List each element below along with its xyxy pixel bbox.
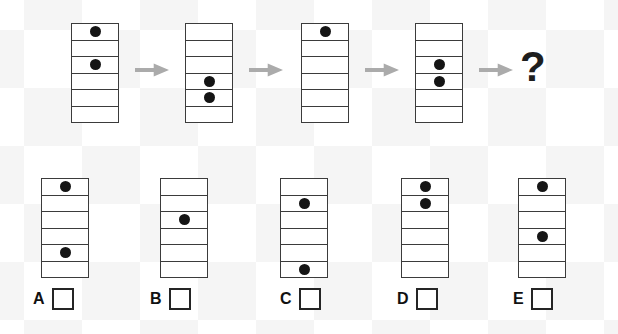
grid-row <box>72 56 118 73</box>
grid-row <box>519 261 565 278</box>
grid-row <box>519 244 565 261</box>
grid-row <box>161 228 207 245</box>
grid-row <box>42 211 88 228</box>
grid-row <box>402 261 448 278</box>
option-label-A: A <box>33 288 74 310</box>
dot-icon <box>90 26 101 37</box>
grid-row <box>42 179 88 195</box>
grid-row <box>302 89 348 106</box>
option-letter: C <box>280 290 292 308</box>
grid-row <box>186 106 232 123</box>
grid-row <box>519 195 565 212</box>
grid-row <box>186 89 232 106</box>
option-label-C: C <box>280 288 321 310</box>
grid-row <box>281 179 327 195</box>
grid-row <box>402 211 448 228</box>
dot-icon <box>537 231 548 242</box>
grid-row <box>402 244 448 261</box>
grid-row <box>72 73 118 90</box>
option-label-B: B <box>150 288 191 310</box>
grid-row <box>302 73 348 90</box>
grid-row <box>186 73 232 90</box>
arrow-right-icon <box>479 63 513 77</box>
grid-row <box>302 40 348 57</box>
option-label-D: D <box>397 288 438 310</box>
arrow-right-icon <box>249 63 283 77</box>
option-grid-B <box>160 178 208 278</box>
grid-row <box>281 244 327 261</box>
grid-row <box>302 106 348 123</box>
grid-row <box>416 73 462 90</box>
dot-icon <box>434 76 445 87</box>
dot-icon <box>60 181 71 192</box>
grid-row <box>281 228 327 245</box>
grid-row <box>161 179 207 195</box>
option-letter: D <box>397 290 409 308</box>
sequence-cell-step-2 <box>185 23 233 123</box>
dot-icon <box>204 92 215 103</box>
grid-row <box>519 228 565 245</box>
grid-row <box>281 261 327 278</box>
grid-row <box>42 261 88 278</box>
answer-checkbox-C[interactable] <box>299 288 321 310</box>
grid-row <box>519 211 565 228</box>
grid-row <box>161 211 207 228</box>
arrow-right-icon <box>135 63 169 77</box>
sequence-cell-step-1 <box>71 23 119 123</box>
option-letter: B <box>150 290 162 308</box>
grid-row <box>402 179 448 195</box>
arrow-right-icon <box>365 63 399 77</box>
option-grid-E <box>518 178 566 278</box>
grid-row <box>72 106 118 123</box>
grid-row <box>302 56 348 73</box>
grid-row <box>416 24 462 40</box>
option-label-E: E <box>513 288 553 310</box>
option-grid-A <box>41 178 89 278</box>
sequence-cell-step-4 <box>415 23 463 123</box>
answer-checkbox-B[interactable] <box>169 288 191 310</box>
grid-row <box>416 40 462 57</box>
grid-row <box>186 56 232 73</box>
grid-row <box>402 228 448 245</box>
grid-row <box>161 195 207 212</box>
dot-icon <box>434 59 445 70</box>
dot-icon <box>299 198 310 209</box>
dot-icon <box>90 59 101 70</box>
grid-row <box>416 89 462 106</box>
grid-row <box>161 244 207 261</box>
unknown-placeholder: ? <box>520 46 546 88</box>
grid-row <box>42 244 88 261</box>
sequence-cell-step-3 <box>301 23 349 123</box>
puzzle-canvas: ? ABCDE <box>0 0 618 334</box>
dot-icon <box>420 198 431 209</box>
grid-row <box>281 211 327 228</box>
answer-checkbox-D[interactable] <box>416 288 438 310</box>
grid-row <box>72 24 118 40</box>
dot-icon <box>299 264 310 275</box>
dot-icon <box>320 26 331 37</box>
dot-icon <box>537 181 548 192</box>
dot-icon <box>420 181 431 192</box>
grid-row <box>281 195 327 212</box>
grid-row <box>72 89 118 106</box>
option-letter: A <box>33 290 45 308</box>
dot-icon <box>179 214 190 225</box>
grid-row <box>161 261 207 278</box>
grid-row <box>186 40 232 57</box>
option-grid-C <box>280 178 328 278</box>
grid-row <box>416 56 462 73</box>
answer-checkbox-E[interactable] <box>531 288 553 310</box>
grid-row <box>42 195 88 212</box>
grid-row <box>402 195 448 212</box>
answer-checkbox-A[interactable] <box>52 288 74 310</box>
grid-row <box>42 228 88 245</box>
option-letter: E <box>513 290 524 308</box>
grid-row <box>186 24 232 40</box>
grid-row <box>302 24 348 40</box>
grid-row <box>416 106 462 123</box>
grid-row <box>519 179 565 195</box>
dot-icon <box>60 247 71 258</box>
option-grid-D <box>401 178 449 278</box>
dot-icon <box>204 76 215 87</box>
grid-row <box>72 40 118 57</box>
